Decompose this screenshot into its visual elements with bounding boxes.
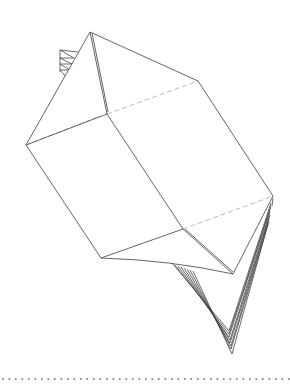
diagram-canvas: Folded paper box with pleated flaps [0,0,290,385]
box-faces [26,32,273,274]
folded-box-illustration [0,0,290,385]
